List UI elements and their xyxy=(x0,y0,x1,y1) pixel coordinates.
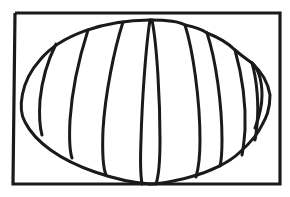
diagram-canvas xyxy=(0,0,290,197)
segment-line-3 xyxy=(103,22,123,175)
segment-line-2 xyxy=(70,30,88,158)
segment-line-5 xyxy=(152,20,160,184)
segment-line-4 xyxy=(141,20,150,184)
segment-line-8 xyxy=(235,50,245,155)
segmented-oval-diagram: Line drawing of a segmented oval (ellips… xyxy=(0,0,290,197)
segment-line-7 xyxy=(207,33,222,166)
segment-line-6 xyxy=(185,25,200,177)
